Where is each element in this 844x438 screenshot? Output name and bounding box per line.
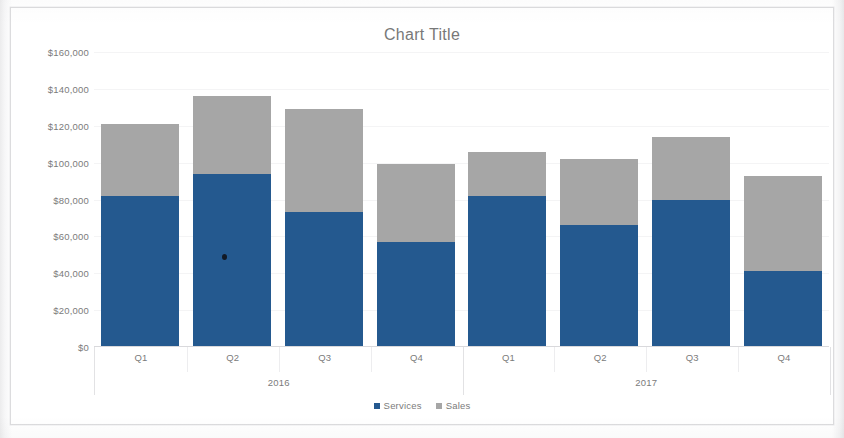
- y-axis-tick-label: $0: [78, 342, 89, 353]
- y-axis-tick-label: $40,000: [53, 268, 89, 279]
- chart-container: Chart Title $0$20,000$40,000$60,000$80,0…: [11, 8, 833, 424]
- group-axis-label: 2017: [463, 377, 831, 388]
- group-axis-label: 2016: [95, 377, 463, 388]
- bar-segment-sales[interactable]: [377, 164, 455, 241]
- y-axis[interactable]: $0$20,000$40,000$60,000$80,000$100,000$1…: [27, 52, 89, 347]
- y-axis-tick-label: $120,000: [48, 120, 89, 131]
- bar-segment-services[interactable]: [744, 271, 822, 347]
- category-axis[interactable]: Q1Q2Q3Q4Q1Q2Q3Q4 20162017: [94, 347, 831, 395]
- category-axis-label: Q1: [463, 352, 555, 363]
- category-axis-label: Q4: [371, 352, 463, 363]
- legend-label: Sales: [446, 400, 471, 411]
- group-axis-divider: [463, 347, 464, 395]
- bar-segment-services[interactable]: [652, 200, 730, 348]
- category-axis-label: Q3: [646, 352, 738, 363]
- y-axis-tick-label: $100,000: [48, 157, 89, 168]
- bar-segment-services[interactable]: [285, 212, 363, 347]
- bar-segment-sales[interactable]: [652, 137, 730, 200]
- y-axis-tick-label: $20,000: [53, 305, 89, 316]
- category-axis-tick: [279, 347, 280, 372]
- category-axis-tick: [646, 347, 647, 372]
- y-axis-tick-label: $80,000: [53, 194, 89, 205]
- category-axis-label: Q2: [187, 352, 279, 363]
- bar-segment-services[interactable]: [193, 174, 271, 347]
- bar-segment-services[interactable]: [101, 196, 179, 347]
- legend-swatch-icon: [374, 403, 380, 409]
- bar-segment-sales[interactable]: [285, 109, 363, 212]
- category-axis-label: Q2: [554, 352, 646, 363]
- category-axis-label: Q3: [279, 352, 371, 363]
- chart-legend[interactable]: ServicesSales: [11, 400, 833, 411]
- bar-segment-services[interactable]: [377, 242, 455, 347]
- category-axis-label: Q1: [95, 352, 187, 363]
- bar-series-layer: [94, 52, 829, 347]
- chart-object-frame[interactable]: Chart Title $0$20,000$40,000$60,000$80,0…: [10, 7, 834, 425]
- legend-swatch-icon: [436, 403, 442, 409]
- stacked-bar[interactable]: [468, 152, 546, 347]
- chart-title[interactable]: Chart Title: [11, 26, 833, 44]
- category-axis-tick: [371, 347, 372, 372]
- category-axis-tick: [738, 347, 739, 372]
- stacked-bar[interactable]: [377, 164, 455, 347]
- category-axis-label: Q4: [738, 352, 830, 363]
- stacked-bar[interactable]: [101, 124, 179, 347]
- y-axis-tick-label: $140,000: [48, 83, 89, 94]
- category-axis-tick: [187, 347, 188, 372]
- stacked-bar[interactable]: [652, 137, 730, 347]
- category-axis-tick: [554, 347, 555, 372]
- stacked-bar[interactable]: [744, 176, 822, 347]
- screenshot-root: Chart Title $0$20,000$40,000$60,000$80,0…: [0, 0, 844, 438]
- bar-segment-sales[interactable]: [101, 124, 179, 196]
- legend-item[interactable]: Sales: [436, 400, 471, 411]
- legend-item[interactable]: Services: [374, 400, 422, 411]
- plot-area[interactable]: [94, 52, 829, 347]
- legend-label: Services: [384, 400, 422, 411]
- y-axis-tick-label: $60,000: [53, 231, 89, 242]
- bar-segment-sales[interactable]: [468, 152, 546, 196]
- bar-segment-services[interactable]: [560, 225, 638, 347]
- stacked-bar[interactable]: [560, 159, 638, 347]
- bar-segment-services[interactable]: [468, 196, 546, 347]
- y-axis-tick-label: $160,000: [48, 47, 89, 58]
- bar-segment-sales[interactable]: [560, 159, 638, 225]
- bar-segment-sales[interactable]: [193, 96, 271, 173]
- stacked-bar[interactable]: [193, 96, 271, 347]
- stacked-bar[interactable]: [285, 109, 363, 347]
- bar-segment-sales[interactable]: [744, 176, 822, 272]
